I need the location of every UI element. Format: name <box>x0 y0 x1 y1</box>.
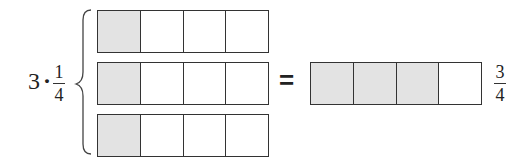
bar-cell <box>226 63 268 104</box>
unit-fraction-denominator: 4 <box>55 86 64 104</box>
fraction-bar-row-2 <box>97 62 269 105</box>
bar-cell-shaded <box>397 63 440 104</box>
fraction-bar <box>53 83 65 84</box>
unit-fraction-numerator: 1 <box>55 63 64 81</box>
bar-cell <box>141 11 184 52</box>
bar-cell-shaded <box>98 11 141 52</box>
bar-cell <box>141 63 184 104</box>
result-fraction-denominator: 4 <box>496 86 505 104</box>
bar-cell <box>226 115 268 156</box>
bar-cell-shaded <box>354 63 397 104</box>
fraction-bar-row-3 <box>97 114 269 157</box>
result-bar <box>310 62 482 105</box>
multiply-dot: · <box>43 68 51 95</box>
fraction-bar-row-1 <box>97 10 269 53</box>
bar-cell <box>184 11 227 52</box>
bar-cell <box>226 11 268 52</box>
bar-cell <box>184 63 227 104</box>
bar-cell <box>184 115 227 156</box>
bar-cell-shaded <box>311 63 354 104</box>
multiplier: 3 <box>28 68 40 95</box>
result-fraction-numerator: 3 <box>496 63 505 81</box>
unit-fraction: 1 4 <box>53 63 65 104</box>
result-fraction: 3 4 <box>494 63 506 104</box>
bar-cell-shaded <box>98 115 141 156</box>
curly-brace-icon <box>74 8 94 156</box>
bar-cell-shaded <box>98 63 141 104</box>
equals-sign: = <box>279 65 294 96</box>
fraction-bar <box>494 83 506 84</box>
bar-cell <box>439 63 481 104</box>
bar-cell <box>141 115 184 156</box>
